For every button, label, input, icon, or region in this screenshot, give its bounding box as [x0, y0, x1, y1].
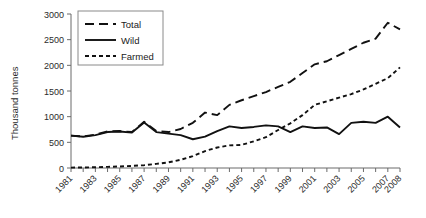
chart-container: Thousand tonnes 050010001500200025003000…	[0, 0, 426, 218]
x-tick-label: 1997	[248, 173, 269, 194]
series-line-farmed	[71, 67, 400, 167]
x-tick-label: 2003	[321, 173, 342, 194]
x-tick-label: 1991	[175, 173, 196, 194]
x-tick-label: 1989	[151, 173, 172, 194]
y-tick-label: 2000	[44, 61, 64, 71]
x-tick-label: 1999	[273, 173, 294, 194]
y-tick-label: 500	[49, 138, 64, 148]
y-axis-title: Thousand tonnes	[9, 66, 20, 140]
x-axis: 1981198319851987198919911993199519971999…	[53, 168, 403, 195]
chart-legend: TotalWildFarmed	[78, 11, 163, 65]
series-line-wild	[71, 117, 400, 140]
y-tick-label: 1500	[44, 87, 64, 97]
x-tick-label: 1981	[53, 173, 74, 194]
y-tick-label: 0	[59, 164, 64, 174]
legend-label-total: Total	[121, 19, 141, 30]
y-tick-label: 3000	[44, 10, 64, 20]
y-axis-title-label: Thousand tonnes	[9, 66, 20, 140]
x-tick-label: 1985	[102, 173, 123, 194]
y-tick-label: 1000	[44, 112, 64, 122]
y-axis: 050010001500200025003000	[44, 10, 71, 174]
line-chart: Thousand tonnes 050010001500200025003000…	[0, 0, 426, 218]
legend-label-wild: Wild	[121, 35, 139, 46]
x-tick-label: 1983	[78, 173, 99, 194]
x-tick-label: 2001	[297, 173, 318, 194]
y-tick-label: 2500	[44, 35, 64, 45]
legend-label-farmed: Farmed	[121, 51, 154, 62]
x-tick-label: 1993	[199, 173, 220, 194]
x-tick-label: 2005	[346, 173, 367, 194]
x-tick-label: 1987	[126, 173, 147, 194]
x-tick-label: 1995	[224, 173, 245, 194]
